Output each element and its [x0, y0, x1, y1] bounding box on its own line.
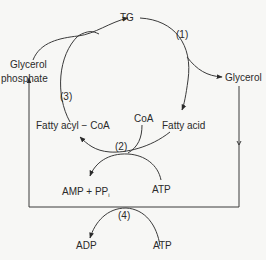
arrow-to-glycerol — [187, 57, 222, 77]
node-glycerol-phosphate-line2: phosphate — [1, 73, 48, 84]
step-2-label: (2) — [115, 141, 127, 152]
triglyceride-fatty-acid-cycle-diagram: TG (1) Glycerol Glycerol phosphate (3) F… — [0, 0, 266, 260]
step-3-label: (3) — [60, 91, 72, 102]
node-tg: TG — [120, 12, 134, 23]
node-glycerol: Glycerol — [225, 72, 262, 83]
amp-ppi-text: AMP + PP — [62, 186, 109, 197]
arc-atp-to-amp — [90, 154, 161, 180]
node-coa: CoA — [134, 113, 154, 124]
node-fatty-acyl-coa: Fatty acyl − CoA — [36, 120, 110, 131]
node-amp-ppi: AMP + PPi — [62, 186, 110, 198]
arrow-glycerol-phosphate-to-tg — [33, 18, 128, 60]
node-adp: ADP — [76, 240, 97, 251]
step-4-label: (4) — [118, 210, 130, 221]
node-atp-bottom: ATP — [153, 240, 172, 251]
node-glycerol-phosphate-line1: Glycerol — [10, 59, 47, 70]
node-fatty-acid: Fatty acid — [162, 120, 205, 131]
arc-fatty-acyl-coa-to-tg — [61, 32, 99, 122]
step-1-label: (1) — [176, 29, 188, 40]
node-atp-top: ATP — [152, 184, 171, 195]
ppi-subscript: i — [108, 192, 109, 198]
